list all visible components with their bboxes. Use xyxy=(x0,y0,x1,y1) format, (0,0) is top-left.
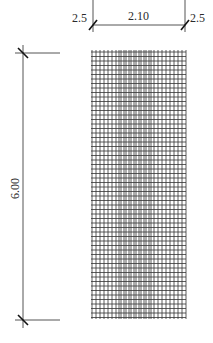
top-left-offset-label: 2.5 xyxy=(72,11,87,25)
mesh-drawing: 2.5 2.10 2.5 6.00 xyxy=(0,0,213,343)
top-right-offset-label: 2.5 xyxy=(190,11,205,25)
reinforcement-mesh-grid xyxy=(91,50,186,319)
left-height-label: 6.00 xyxy=(8,178,22,199)
top-width-label: 2.10 xyxy=(128,9,149,23)
